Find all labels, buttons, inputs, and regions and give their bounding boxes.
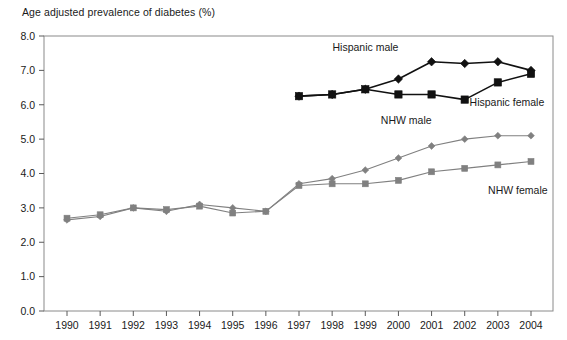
x-axis-tick-label: 1993	[155, 319, 179, 331]
data-point-diamond	[428, 143, 435, 150]
data-point-diamond	[528, 132, 535, 139]
y-axis-tick-label: 6.0	[20, 99, 35, 111]
data-point-square	[263, 208, 269, 214]
axis-layer: 0.01.02.03.04.05.06.07.08.01990199119921…	[20, 30, 553, 331]
y-axis-tick-label: 5.0	[20, 133, 35, 145]
data-point-square	[328, 91, 335, 98]
data-point-square	[295, 92, 302, 99]
data-point-square	[130, 205, 136, 211]
data-point-diamond	[494, 58, 502, 66]
y-axis-tick-label: 8.0	[20, 30, 35, 42]
data-point-diamond	[461, 59, 469, 67]
y-axis-tick-label: 4.0	[20, 167, 35, 179]
y-axis-tick-label: 7.0	[20, 64, 35, 76]
data-point-square	[97, 212, 103, 218]
chart-plot-area: 0.01.02.03.04.05.06.07.08.01990199119921…	[0, 0, 567, 340]
x-axis-tick-label: 2001	[420, 319, 444, 331]
data-point-square	[163, 207, 169, 213]
series-line	[67, 136, 531, 220]
series-line	[67, 161, 531, 218]
x-axis-tick-label: 2003	[486, 319, 510, 331]
plot-frame	[44, 36, 553, 311]
y-axis-tick-label: 1.0	[20, 270, 35, 282]
x-axis-tick-label: 1997	[287, 319, 311, 331]
x-axis-tick-label: 1998	[320, 319, 344, 331]
data-point-square	[395, 91, 402, 98]
data-point-diamond	[395, 155, 402, 162]
data-point-square	[495, 162, 501, 168]
data-point-square	[362, 181, 368, 187]
data-point-square	[230, 210, 236, 216]
data-point-square	[362, 86, 369, 93]
data-point-square	[296, 183, 302, 189]
data-point-square	[494, 79, 501, 86]
data-point-square	[461, 96, 468, 103]
chart-container: Age adjusted prevalence of diabetes (%) …	[0, 0, 567, 340]
x-axis-tick-label: 1990	[55, 319, 79, 331]
data-point-diamond	[461, 136, 468, 143]
data-point-square	[527, 70, 534, 77]
series-label-nhw-male: NHW male	[381, 114, 432, 126]
data-point-diamond	[494, 132, 501, 139]
x-axis-tick-label: 1999	[354, 319, 378, 331]
y-axis-tick-label: 3.0	[20, 202, 35, 214]
data-point-square	[395, 177, 401, 183]
x-axis-tick-label: 2002	[453, 319, 477, 331]
series-label-hispanic-male: Hispanic male	[332, 41, 398, 53]
data-point-square	[197, 203, 203, 209]
y-axis-tick-label: 0.0	[20, 305, 35, 317]
series-label-hispanic-female: Hispanic female	[470, 96, 545, 108]
data-point-diamond	[427, 58, 435, 66]
x-axis-tick-label: 1994	[188, 319, 212, 331]
series-nhw-female	[64, 158, 534, 221]
x-axis-tick-label: 1991	[88, 319, 112, 331]
x-axis-tick-label: 1995	[221, 319, 245, 331]
data-point-square	[428, 91, 435, 98]
x-axis-tick-label: 1996	[254, 319, 278, 331]
data-point-square	[462, 165, 468, 171]
data-point-square	[64, 215, 70, 221]
data-point-diamond	[362, 167, 369, 174]
data-point-square	[528, 158, 534, 164]
data-point-square	[329, 181, 335, 187]
x-axis-tick-label: 2000	[387, 319, 411, 331]
series-layer	[64, 58, 536, 224]
data-point-diamond	[394, 75, 402, 83]
x-axis-tick-label: 1992	[122, 319, 146, 331]
series-label-nhw-female: NHW female	[488, 184, 548, 196]
y-axis-tick-label: 2.0	[20, 236, 35, 248]
x-axis-tick-label: 2004	[519, 319, 543, 331]
data-point-square	[429, 169, 435, 175]
